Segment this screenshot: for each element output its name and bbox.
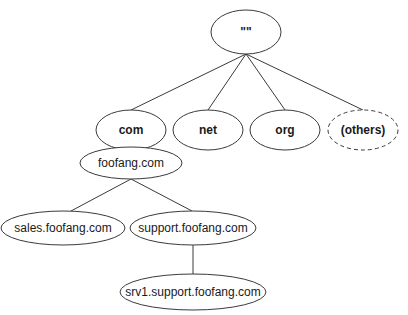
node-label: (others) (341, 123, 386, 137)
node-org: org (250, 110, 320, 150)
node-label: com (119, 123, 144, 137)
node-label: sales.foofang.com (14, 221, 111, 235)
edge-foofang-sales (71, 179, 131, 211)
node-label: org (275, 123, 294, 137)
edge-root-org (246, 54, 285, 110)
edge-root-net (208, 54, 246, 110)
node-label: srv1.support.foofang.com (125, 285, 260, 299)
edge-root-others (246, 54, 363, 110)
nodes: ""comnetorg(others)foofang.comsales.foof… (1, 10, 398, 310)
node-foofang: foofang.com (80, 147, 182, 179)
node-net: net (173, 110, 243, 150)
node-label: "" (240, 25, 251, 39)
node-label: net (199, 123, 217, 137)
node-label: foofang.com (98, 156, 164, 170)
node-root: "" (211, 10, 281, 54)
node-support: support.foofang.com (130, 211, 256, 245)
dns-tree-diagram: ""comnetorg(others)foofang.comsales.foof… (0, 0, 408, 315)
edge-foofang-support (131, 179, 192, 211)
node-others: (others) (328, 110, 398, 150)
node-sales: sales.foofang.com (1, 211, 125, 245)
edge-root-com (131, 54, 246, 110)
node-label: support.foofang.com (138, 221, 247, 235)
node-srv1: srv1.support.foofang.com (120, 274, 266, 310)
node-com: com (96, 110, 166, 150)
